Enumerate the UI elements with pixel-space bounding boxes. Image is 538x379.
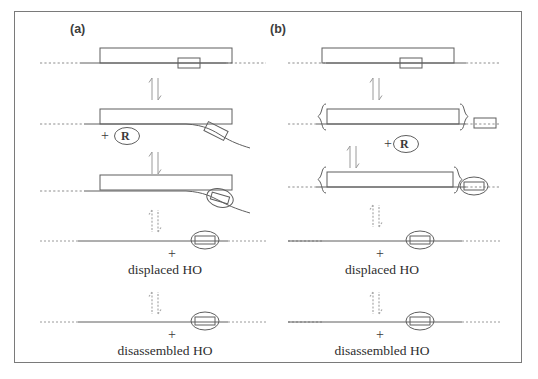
plus-sign-a-row5: + (168, 327, 176, 343)
plus-sign-b-row2: + (384, 136, 392, 152)
histone-octamer-b-row4 (406, 231, 434, 249)
histone-octamer-b-row3 (460, 177, 488, 195)
plus-sign-a-row2: + (101, 128, 109, 144)
histone-octamer-b-row5 (406, 312, 434, 330)
reagent-label-b: R (400, 137, 409, 152)
bracket-right-b-row2 (460, 104, 468, 130)
panel-b-row-3 (288, 167, 500, 195)
panel-b-equilibrium-arrow-2 (347, 146, 359, 168)
plus-sign-a-row4: + (168, 246, 176, 262)
histone-octamer-a-row4 (191, 231, 219, 249)
panel-a-row-1 (40, 48, 266, 68)
caption-displaced-ho-b: displaced HO (302, 262, 462, 278)
bracket-left-b-row3 (318, 167, 326, 193)
figure-canvas: (a) (b) (0, 0, 538, 379)
caption-disassembled-ho-a: disassembled HO (85, 343, 245, 359)
panel-b-graphics (288, 48, 500, 330)
panel-b-row-5 (288, 312, 500, 330)
panel-b-hatched-arrow-2 (370, 292, 382, 314)
caption-displaced-ho-a: displaced HO (85, 262, 245, 278)
panel-a-equilibrium-arrow-2 (149, 152, 161, 174)
panel-a-hatched-arrow-2 (149, 292, 161, 314)
panel-b-row-2 (288, 104, 500, 130)
histone-octamer-a-row5 (191, 312, 219, 330)
reagent-label-a: R (121, 129, 130, 144)
caption-disassembled-ho-b: disassembled HO (302, 343, 462, 359)
panel-a-row-4 (40, 231, 268, 249)
diagram-drawing-layer (0, 0, 538, 379)
panel-a-row-2 (40, 109, 250, 148)
plus-sign-b-row5: + (376, 327, 384, 343)
bracket-left-b-row2 (318, 104, 326, 130)
plus-sign-b-row4: + (376, 246, 384, 262)
panel-a-equilibrium-arrow-1 (149, 78, 161, 100)
panel-a-graphics (40, 48, 268, 330)
panel-b-equilibrium-arrow-1 (370, 78, 382, 100)
panel-b-row-1 (288, 48, 500, 68)
panel-b-hatched-arrow-1 (370, 205, 382, 227)
panel-b-row-4 (288, 231, 500, 249)
panel-a-hatched-arrow-1 (149, 210, 161, 232)
panel-a-row-5 (40, 312, 268, 330)
panel-a-row-3 (40, 175, 250, 213)
